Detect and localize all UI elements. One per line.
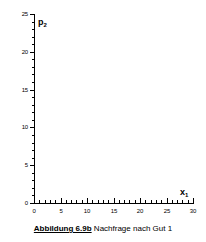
y-tick-label: 5 bbox=[12, 162, 28, 168]
y-tick-major bbox=[30, 52, 35, 53]
x-tick-minor bbox=[124, 200, 125, 204]
caption-figure-text: Nachfrage nach Gut 1 bbox=[94, 224, 172, 233]
x-tick-minor bbox=[55, 200, 56, 204]
x-tick-minor bbox=[82, 200, 83, 204]
x-tick-minor bbox=[71, 200, 72, 204]
y-tick-label: 0 bbox=[12, 200, 28, 206]
y-tick-minor bbox=[32, 82, 35, 83]
y-axis-label-subscript: 2 bbox=[44, 22, 47, 28]
y-tick-minor bbox=[32, 29, 35, 30]
x-tick-minor bbox=[172, 200, 173, 204]
y-tick-minor bbox=[32, 97, 35, 98]
x-tick-minor bbox=[66, 200, 67, 204]
x-tick-major bbox=[140, 198, 141, 204]
x-tick-major bbox=[167, 198, 168, 204]
y-tick-minor bbox=[32, 74, 35, 75]
y-tick-minor bbox=[32, 120, 35, 121]
x-tick-minor bbox=[98, 200, 99, 204]
caption-figure-number: Abbildung 6.9b bbox=[34, 224, 92, 233]
x-tick-minor bbox=[151, 200, 152, 204]
y-tick-minor bbox=[32, 173, 35, 174]
x-tick-label: 5 bbox=[53, 208, 69, 214]
y-tick-minor bbox=[32, 105, 35, 106]
y-tick-minor bbox=[32, 67, 35, 68]
y-tick-label: 20 bbox=[12, 49, 28, 55]
x-tick-minor bbox=[50, 200, 51, 204]
y-tick-minor bbox=[32, 180, 35, 181]
demand-curve bbox=[0, 0, 206, 220]
y-tick-minor bbox=[32, 44, 35, 45]
y-axis-label: p2 bbox=[38, 18, 47, 28]
y-tick-minor bbox=[32, 22, 35, 23]
y-tick-label: 10 bbox=[12, 124, 28, 130]
y-tick-minor bbox=[32, 112, 35, 113]
y-axis-line bbox=[34, 14, 35, 203]
y-tick-label: 15 bbox=[12, 87, 28, 93]
y-tick-minor bbox=[32, 188, 35, 189]
x-tick-minor bbox=[108, 200, 109, 204]
x-tick-label: 15 bbox=[106, 208, 122, 214]
figure-caption: Abbildung 6.9b Nachfrage nach Gut 1 bbox=[0, 224, 206, 234]
x-tick-label: 0 bbox=[26, 208, 42, 214]
x-tick-label: 10 bbox=[79, 208, 95, 214]
x-tick-label: 30 bbox=[185, 208, 201, 214]
x-tick-minor bbox=[119, 200, 120, 204]
y-tick-minor bbox=[32, 195, 35, 196]
y-tick-minor bbox=[32, 37, 35, 38]
x-tick-minor bbox=[145, 200, 146, 204]
x-tick-minor bbox=[156, 200, 157, 204]
y-tick-major bbox=[30, 90, 35, 91]
x-tick-major bbox=[114, 198, 115, 204]
x-tick-major bbox=[34, 198, 35, 204]
x-tick-minor bbox=[161, 200, 162, 204]
x-tick-minor bbox=[76, 200, 77, 204]
x-tick-major bbox=[61, 198, 62, 204]
x-tick-major bbox=[193, 198, 194, 204]
x-tick-minor bbox=[129, 200, 130, 204]
y-tick-minor bbox=[32, 143, 35, 144]
y-tick-major bbox=[30, 127, 35, 128]
x-axis-label: x1 bbox=[180, 188, 188, 198]
y-tick-minor bbox=[32, 135, 35, 136]
y-tick-label: 25 bbox=[12, 11, 28, 17]
figure-container: 0510152025 051015202530 p2 x1 Abbildung … bbox=[0, 0, 206, 242]
x-tick-minor bbox=[92, 200, 93, 204]
y-tick-major bbox=[30, 14, 35, 15]
x-axis-label-subscript: 1 bbox=[185, 192, 188, 198]
x-tick-minor bbox=[182, 200, 183, 204]
y-axis-label-variable: p bbox=[38, 17, 44, 27]
x-tick-minor bbox=[177, 200, 178, 204]
y-tick-minor bbox=[32, 59, 35, 60]
plot-area: 0510152025 051015202530 p2 x1 bbox=[0, 0, 206, 220]
x-tick-minor bbox=[135, 200, 136, 204]
x-tick-minor bbox=[45, 200, 46, 204]
x-tick-label: 25 bbox=[159, 208, 175, 214]
y-tick-minor bbox=[32, 158, 35, 159]
y-tick-minor bbox=[32, 150, 35, 151]
x-tick-label: 20 bbox=[132, 208, 148, 214]
y-tick-major bbox=[30, 165, 35, 166]
x-tick-minor bbox=[39, 200, 40, 204]
x-tick-major bbox=[87, 198, 88, 204]
x-tick-minor bbox=[188, 200, 189, 204]
x-tick-minor bbox=[103, 200, 104, 204]
